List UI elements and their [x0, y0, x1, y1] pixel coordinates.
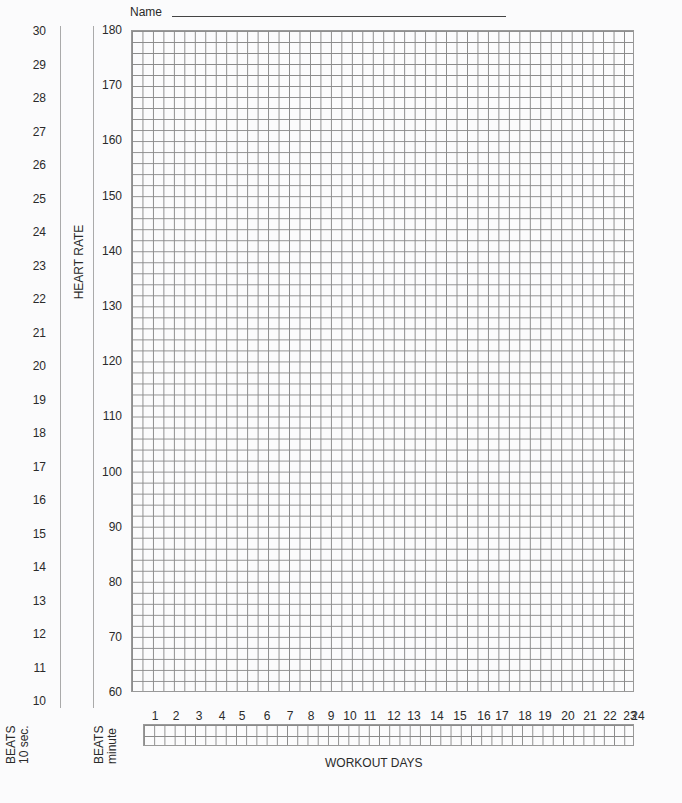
tick-label: 21 — [0, 326, 46, 340]
day-tick-label: 13 — [407, 709, 420, 723]
tick-label: 25 — [0, 192, 46, 206]
day-tick-label: 12 — [387, 709, 400, 723]
workout-days-entry-strip[interactable] — [143, 724, 634, 746]
day-tick-label: 21 — [583, 709, 596, 723]
day-tick-label: 8 — [308, 709, 315, 723]
day-tick-label: 7 — [287, 709, 294, 723]
day-tick-label: 5 — [239, 709, 246, 723]
day-tick-label: 20 — [561, 709, 574, 723]
tick-label: 80 — [96, 575, 122, 589]
tick-label: 23 — [0, 259, 46, 273]
tick-label: 150 — [96, 189, 122, 203]
day-tick-label: 17 — [495, 709, 508, 723]
tick-label: 26 — [0, 158, 46, 172]
tick-label: 170 — [96, 78, 122, 92]
day-tick-label: 24 — [631, 709, 644, 723]
beats-minute-label: BEATSminute — [93, 726, 119, 764]
divider-line — [93, 26, 94, 708]
tick-label: 11 — [0, 661, 46, 675]
tick-label: 110 — [96, 409, 122, 423]
tick-label: 22 — [0, 292, 46, 306]
day-tick-label: 16 — [477, 709, 490, 723]
divider-line — [60, 26, 61, 708]
tick-label: 29 — [0, 58, 46, 72]
day-tick-label: 14 — [430, 709, 443, 723]
tick-label: 20 — [0, 359, 46, 373]
tick-label: 70 — [96, 630, 122, 644]
day-tick-label: 3 — [196, 709, 203, 723]
tick-label: 14 — [0, 560, 46, 574]
tick-label: 15 — [0, 527, 46, 541]
day-tick-label: 9 — [328, 709, 335, 723]
tick-label: 13 — [0, 594, 46, 608]
name-field-line[interactable] — [172, 16, 506, 17]
tick-label: 27 — [0, 125, 46, 139]
tick-label: 16 — [0, 493, 46, 507]
beats-10sec-label: BEATS 10 sec. — [5, 725, 31, 764]
day-tick-label: 19 — [538, 709, 551, 723]
tick-label: 19 — [0, 393, 46, 407]
day-tick-label: 11 — [364, 709, 376, 723]
day-tick-label: 18 — [518, 709, 531, 723]
name-label: Name — [130, 5, 162, 19]
day-tick-label: 2 — [173, 709, 180, 723]
tick-label: 10 — [0, 694, 46, 708]
day-tick-label: 22 — [603, 709, 616, 723]
tick-label: 120 — [96, 354, 122, 368]
tick-label: 28 — [0, 91, 46, 105]
tick-label: 17 — [0, 460, 46, 474]
label-line: minute — [106, 726, 119, 764]
day-tick-label: 4 — [219, 709, 226, 723]
tick-label: 160 — [96, 133, 122, 147]
tick-label: 12 — [0, 627, 46, 641]
day-tick-label: 6 — [264, 709, 271, 723]
tick-label: 24 — [0, 225, 46, 239]
heart-rate-grid[interactable] — [131, 30, 634, 692]
tick-label: 100 — [96, 465, 122, 479]
day-tick-label: 1 — [152, 709, 159, 723]
tick-label: 140 — [96, 244, 122, 258]
tick-label: 30 — [0, 24, 46, 38]
tick-label: 60 — [96, 685, 122, 699]
day-tick-label: 15 — [453, 709, 466, 723]
day-tick-label: 10 — [343, 709, 356, 723]
x-axis-title: WORKOUT DAYS — [325, 756, 423, 770]
label-line: 10 sec. — [18, 725, 31, 764]
tick-label: 180 — [96, 23, 122, 37]
tick-label: 18 — [0, 426, 46, 440]
y-axis-title: HEART RATE — [72, 225, 86, 300]
tick-label: 130 — [96, 299, 122, 313]
tick-label: 90 — [96, 520, 122, 534]
